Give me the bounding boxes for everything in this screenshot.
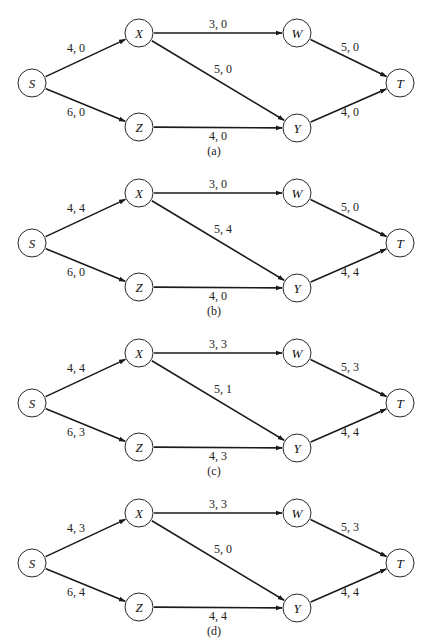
- edge-w-t: 5, 3: [310, 520, 386, 557]
- node-w: W: [283, 339, 311, 367]
- node-w: W: [283, 19, 311, 47]
- node-label: X: [134, 26, 144, 41]
- node-x: X: [125, 19, 153, 47]
- flow-network-panel-b: 4, 46, 03, 05, 44, 05, 04, 4SXWTZY(b): [18, 177, 414, 318]
- arrow-icon: [46, 199, 126, 236]
- edge-label: 5, 0: [341, 40, 359, 54]
- arrow-icon: [154, 127, 282, 128]
- arrow-icon: [154, 607, 282, 608]
- flow-network-panel-a: 4, 06, 03, 05, 04, 05, 04, 0SXWTZY(a): [18, 17, 414, 158]
- node-label: X: [134, 186, 144, 201]
- edge-label: 4, 0: [209, 289, 227, 303]
- edge-s-z: 6, 0: [46, 249, 125, 282]
- edge-z-y: 4, 0: [154, 287, 282, 303]
- node-x: X: [125, 499, 153, 527]
- edge-label: 5, 0: [341, 200, 359, 214]
- edge-s-z: 6, 0: [46, 89, 125, 122]
- node-z: Z: [125, 593, 153, 621]
- edge-label: 6, 0: [67, 105, 85, 119]
- panel-caption: (b): [207, 304, 221, 318]
- node-label: T: [396, 76, 404, 91]
- edge-label: 4, 4: [341, 265, 359, 279]
- edge-w-t: 5, 0: [310, 40, 386, 77]
- edge-label: 6, 3: [67, 425, 85, 439]
- edge-z-y: 4, 0: [154, 127, 282, 143]
- arrow-icon: [152, 41, 284, 121]
- edge-label: 6, 4: [67, 585, 85, 599]
- edge-y-t: 4, 4: [311, 409, 387, 442]
- panel-caption: (c): [207, 464, 220, 478]
- arrow-icon: [46, 569, 125, 602]
- edge-y-t: 4, 0: [311, 89, 387, 122]
- edge-x-w: 3, 3: [154, 337, 282, 353]
- edge-label: 3, 0: [209, 17, 227, 31]
- edge-x-y: 5, 4: [152, 201, 284, 281]
- node-label: W: [292, 506, 304, 521]
- node-z: Z: [125, 273, 153, 301]
- edge-label: 5, 1: [214, 382, 232, 396]
- edge-label: 4, 0: [341, 105, 359, 119]
- node-label: W: [292, 186, 304, 201]
- flow-network-figure: 4, 06, 03, 05, 04, 05, 04, 0SXWTZY(a)4, …: [0, 0, 430, 643]
- edge-y-t: 4, 4: [311, 569, 387, 602]
- node-x: X: [125, 179, 153, 207]
- edge-label: 5, 0: [214, 62, 232, 76]
- edge-x-y: 5, 0: [152, 41, 284, 121]
- edge-x-y: 5, 0: [152, 521, 284, 601]
- node-label: W: [292, 26, 304, 41]
- node-label: S: [29, 556, 36, 571]
- node-z: Z: [125, 433, 153, 461]
- node-label: Z: [135, 120, 143, 135]
- edge-label: 3, 3: [209, 337, 227, 351]
- arrow-icon: [154, 287, 282, 288]
- edge-label: 4, 4: [209, 609, 227, 623]
- edge-s-x: 4, 4: [46, 199, 126, 236]
- edge-z-y: 4, 3: [154, 447, 282, 463]
- node-label: T: [396, 556, 404, 571]
- edge-label: 4, 0: [67, 41, 85, 55]
- node-label: T: [396, 396, 404, 411]
- edge-x-w: 3, 0: [154, 177, 282, 193]
- node-label: X: [134, 506, 144, 521]
- edge-w-t: 5, 0: [310, 200, 386, 237]
- node-s: S: [18, 389, 46, 417]
- edge-label: 3, 3: [209, 497, 227, 511]
- edge-y-t: 4, 4: [311, 249, 387, 282]
- flow-network-panel-d: 4, 36, 43, 35, 04, 45, 34, 4SXWTZY(d): [18, 497, 414, 638]
- node-s: S: [18, 69, 46, 97]
- arrow-icon: [154, 447, 282, 448]
- panel-caption: (d): [207, 624, 221, 638]
- node-label: S: [29, 396, 36, 411]
- node-label: W: [292, 346, 304, 361]
- node-label: S: [29, 76, 36, 91]
- node-w: W: [283, 179, 311, 207]
- arrow-icon: [46, 39, 126, 76]
- edge-label: 6, 0: [67, 265, 85, 279]
- panel-caption: (a): [207, 144, 220, 158]
- node-y: Y: [283, 114, 311, 142]
- arrow-icon: [46, 249, 125, 282]
- node-label: Z: [135, 440, 143, 455]
- edge-label: 4, 0: [209, 129, 227, 143]
- edge-s-x: 4, 0: [46, 39, 126, 76]
- edge-x-w: 3, 0: [154, 17, 282, 33]
- node-label: X: [134, 346, 144, 361]
- edge-s-z: 6, 3: [46, 409, 125, 442]
- edge-label: 3, 0: [209, 177, 227, 191]
- node-s: S: [18, 229, 46, 257]
- node-t: T: [386, 69, 414, 97]
- edge-label: 4, 4: [341, 425, 359, 439]
- arrow-icon: [152, 521, 284, 601]
- edge-label: 5, 3: [341, 520, 359, 534]
- edge-label: 4, 3: [67, 521, 85, 535]
- edge-x-y: 5, 1: [152, 361, 284, 441]
- edge-s-x: 4, 3: [46, 519, 126, 556]
- node-label: T: [396, 236, 404, 251]
- flow-network-panel-c: 4, 46, 33, 35, 14, 35, 34, 4SXWTZY(c): [18, 337, 414, 478]
- edge-label: 5, 3: [341, 360, 359, 374]
- edge-label: 5, 0: [214, 542, 232, 556]
- edge-label: 5, 4: [214, 222, 232, 236]
- node-label: Z: [135, 600, 143, 615]
- edge-z-y: 4, 4: [154, 607, 282, 623]
- node-y: Y: [283, 594, 311, 622]
